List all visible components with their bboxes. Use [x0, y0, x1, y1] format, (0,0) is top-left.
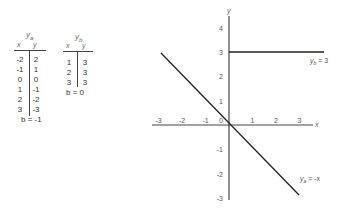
- x-tick-label: 2: [274, 117, 278, 124]
- y-tick-label: 4: [219, 25, 223, 32]
- y-tick-label: 2: [219, 73, 223, 80]
- x-tick-label: -2: [179, 117, 185, 124]
- y-tick-label: 1: [219, 98, 223, 105]
- line-ya-label: ya = -x: [299, 175, 321, 184]
- y-tick-label: -2: [217, 171, 223, 178]
- y-tick-label: 3: [219, 49, 223, 56]
- x-tick-label: 3: [298, 117, 302, 124]
- y-tick-label: -1: [217, 146, 223, 153]
- x-tick-label: -1: [202, 117, 208, 124]
- line-yb-label: yb = 3: [309, 57, 328, 66]
- x-tick-label: 1: [251, 117, 255, 124]
- x-axis-label: x: [314, 121, 319, 128]
- y-tick-label: -3: [217, 195, 223, 202]
- coordinate-graph: y x -3-2-10123 4321-1-2-3 yb = 3 ya = -x: [0, 0, 348, 214]
- y-axis-label: y: [226, 7, 231, 15]
- line-ya: [161, 53, 299, 195]
- x-tick-label: -3: [155, 117, 161, 124]
- x-tick-label: 0: [219, 117, 223, 124]
